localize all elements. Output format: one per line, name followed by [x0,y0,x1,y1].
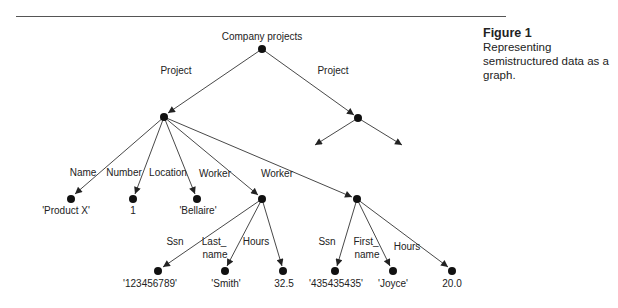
edge-label-location: Location [149,167,187,178]
edge-label-project-right: Project [317,65,348,76]
edge-label-number: Number [106,167,142,178]
edge-project2-child-left [315,118,358,145]
edge-label-name: Name [70,167,97,178]
graph-edges [75,49,448,267]
edge-label-firstname-1: First_ [354,236,379,247]
edge-label-firstname-2: name [354,249,379,260]
value-ssn1: '123456789' [123,278,177,289]
node-number [129,195,137,203]
node-project2 [354,114,362,122]
edge-name [75,117,164,194]
edge-label-hours1: Hours [243,236,270,247]
edge-label-ssn2: Ssn [318,236,335,247]
node-worker1 [258,195,266,203]
figure-label: Figure 1 [483,26,613,40]
edge-root-project1 [168,49,262,113]
value-name: 'Product X' [42,205,90,216]
edge-label-lastname-2: name [202,249,227,260]
node-worker2 [353,195,361,203]
value-firstname: 'Joyce' [378,278,408,289]
value-number: 1 [130,205,136,216]
value-hours1: 32.5 [274,278,294,289]
edge-label-ssn1: Ssn [166,236,183,247]
edge-root-project2 [262,49,354,115]
value-ssn2: '435435435' [309,278,363,289]
edge-lastname [227,199,262,266]
edge-worker1 [164,117,258,195]
root-label: Company projects [222,31,303,42]
edge-label-lastname-1: Last_ [202,236,227,247]
node-hours1 [279,267,287,275]
value-lastname: 'Smith' [211,278,240,289]
node-name [67,195,75,203]
edge-label-worker2: Worker [261,168,294,179]
edge-label-project-left: Project [160,65,191,76]
node-lastname [221,267,229,275]
node-root [258,45,266,53]
edge-number [135,117,164,194]
node-location [193,195,201,203]
node-ssn2 [331,267,339,275]
figure-caption: Figure 1 Representing semistructured dat… [483,26,613,82]
node-hours2 [448,267,456,275]
value-location: 'Bellaire' [179,205,216,216]
edge-worker2 [164,117,352,197]
value-hours2: 20.0 [442,278,462,289]
edge-label-worker1: Worker [199,168,232,179]
node-firstname [389,267,397,275]
edge-hours1 [262,199,282,266]
node-project1 [160,113,168,121]
edge-label-hours2: Hours [394,241,421,252]
node-ssn1 [154,267,162,275]
figure-description: Representing semistructured data as a gr… [483,41,609,81]
edge-project2-child-right [358,118,402,145]
